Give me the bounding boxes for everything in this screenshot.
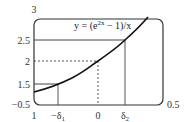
y-tick-neg-0.5: −0.5 [12, 99, 30, 110]
plot-frame [34, 19, 163, 105]
x-tick-delta2: δ2 [121, 110, 130, 122]
x-tick-zero: 0 [96, 110, 101, 121]
y-tick-2: 2 [25, 56, 30, 67]
y-tick-1.5: 1.5 [18, 79, 31, 90]
x-tick-right: 0.5 [167, 99, 180, 110]
y-tick-3: 3 [32, 4, 37, 15]
y-tick-2.5: 2.5 [18, 35, 31, 46]
chart-canvas: y = (e2x − 1)/x 3 2.5 2 1.5 −0.5 1 −δ1 0… [0, 0, 185, 122]
x-tick-neg-delta1: −δ1 [51, 110, 65, 122]
x-tick-left: 1 [32, 110, 37, 121]
equation-label: y = (e2x − 1)/x [74, 19, 131, 32]
